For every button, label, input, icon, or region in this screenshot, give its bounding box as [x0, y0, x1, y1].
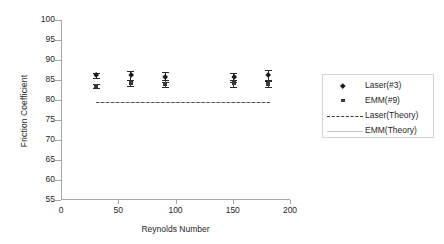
emm-data-point: [125, 75, 137, 91]
x-tick: [233, 200, 234, 204]
dashed-line-icon: [325, 108, 365, 123]
y-tick: [55, 160, 61, 161]
y-tick-label: 60: [33, 175, 55, 184]
legend-item-emm-theory[interactable]: EMM(Theory): [323, 123, 433, 138]
x-tick-label: 0: [46, 205, 76, 215]
x-tick-label: 50: [103, 205, 133, 215]
y-tick-label: 55: [33, 195, 55, 204]
y-tick: [55, 200, 61, 201]
legend-label: EMM(Theory): [365, 126, 417, 135]
y-tick: [55, 140, 61, 141]
emm-data-point: [90, 78, 102, 94]
y-tick: [55, 40, 61, 41]
y-tick-label: 100: [33, 15, 55, 24]
y-tick-label: 80: [33, 95, 55, 104]
emm-data-point: [262, 76, 274, 92]
y-axis-label: Friction Coefficient: [19, 31, 29, 191]
legend-label: Laser(Theory): [365, 111, 418, 120]
emm-data-point: [228, 75, 240, 91]
x-tick-label: 200: [275, 205, 305, 215]
y-tick: [55, 180, 61, 181]
legend-item-laser-theory[interactable]: Laser(Theory): [323, 108, 433, 123]
x-axis-label: Reynolds Number: [61, 224, 290, 234]
y-tick: [55, 120, 61, 121]
laser-theory-line: [96, 102, 270, 103]
y-tick-label: 70: [33, 135, 55, 144]
plot-area: [61, 20, 290, 200]
legend-label: EMM(#9): [365, 96, 400, 105]
square-marker-icon: [325, 93, 365, 108]
diamond-marker-icon: [325, 78, 365, 93]
solid-line-icon: [325, 123, 365, 138]
emm-data-point: [159, 76, 171, 92]
y-tick-label: 85: [33, 75, 55, 84]
x-tick-label: 100: [161, 205, 191, 215]
y-tick: [55, 60, 61, 61]
y-tick: [55, 20, 61, 21]
y-tick-label: 95: [33, 35, 55, 44]
y-tick-label: 65: [33, 155, 55, 164]
y-tick: [55, 100, 61, 101]
y-tick-label: 90: [33, 55, 55, 64]
x-tick-label: 150: [218, 205, 248, 215]
y-tick-label: 75: [33, 115, 55, 124]
y-tick: [55, 80, 61, 81]
x-tick: [176, 200, 177, 204]
legend-item-emm-points[interactable]: EMM(#9): [323, 93, 433, 108]
x-tick: [118, 200, 119, 204]
chart-figure: Friction Coefficient 5560657075808590951…: [0, 0, 444, 244]
legend-label: Laser(#3): [365, 81, 401, 90]
legend-item-laser-points[interactable]: Laser(#3): [323, 78, 433, 93]
x-tick: [290, 200, 291, 204]
legend: Laser(#3) EMM(#9) Laser(Theory) EMM(Theo…: [322, 74, 434, 138]
